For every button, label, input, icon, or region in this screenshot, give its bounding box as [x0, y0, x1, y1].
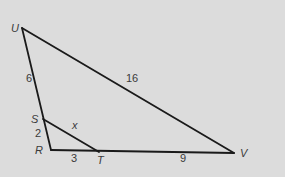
length-label-us: 6 — [26, 72, 32, 84]
segment-uv — [22, 28, 234, 153]
segment-st — [43, 119, 99, 152]
length-label-sr: 2 — [35, 127, 41, 139]
triangle-diagram: U S R T V 16 6 2 3 9 x — [0, 0, 285, 177]
vertex-label-t: T — [97, 154, 105, 166]
diagram-canvas: U S R T V 16 6 2 3 9 x — [0, 0, 285, 177]
segment-rv — [51, 150, 234, 153]
length-label-rt: 3 — [71, 152, 77, 164]
length-label-tv: 9 — [180, 152, 186, 164]
vertex-label-s: S — [31, 113, 39, 125]
length-label-uv: 16 — [126, 72, 138, 84]
vertex-label-v: V — [240, 147, 249, 159]
vertex-label-r: R — [35, 144, 43, 156]
vertex-label-u: U — [11, 22, 19, 34]
length-label-st: x — [71, 119, 78, 131]
